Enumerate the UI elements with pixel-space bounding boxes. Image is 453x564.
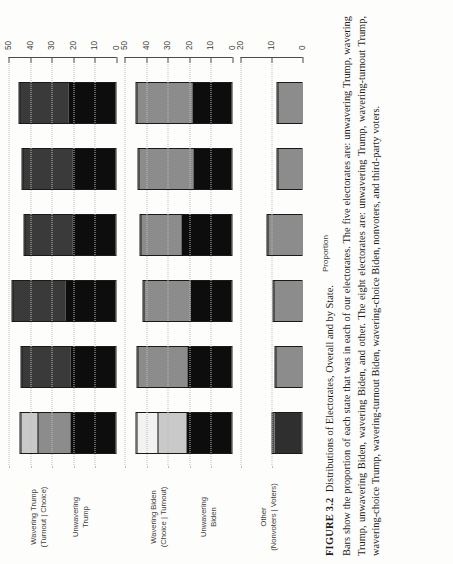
segment-unwavering-trump bbox=[72, 149, 115, 189]
segment-wavering-trump-combined-5-electorate- bbox=[21, 347, 70, 387]
gridline bbox=[189, 64, 190, 468]
figure-number: FIGURE 3.2 bbox=[323, 498, 334, 557]
segment-unwavering-trump bbox=[70, 413, 115, 453]
bar-trump-WI[interactable] bbox=[18, 82, 116, 124]
axis-tick-label: 20 bbox=[184, 41, 193, 50]
bar-other-FL[interactable] bbox=[272, 280, 302, 322]
segment-wavering-biden-combined-5-electorate- bbox=[136, 83, 192, 123]
bar-biden-FL[interactable] bbox=[142, 280, 232, 322]
bar-other-WI[interactable] bbox=[276, 82, 302, 124]
gridline bbox=[30, 64, 31, 468]
axis-tick bbox=[302, 57, 303, 63]
strip-label-line1: Wavering Trump bbox=[28, 474, 38, 560]
gridline bbox=[8, 64, 9, 468]
axis-tick bbox=[167, 57, 168, 63]
strip-label-line1: Unwavering bbox=[198, 474, 208, 560]
strip-label-line1: Other bbox=[258, 474, 268, 560]
segment-unwavering-trump bbox=[72, 215, 115, 255]
axis-tick bbox=[124, 57, 125, 63]
strip-label-line2: Trump bbox=[80, 474, 90, 560]
strip-label-line2: (Nonvoters | Voters) bbox=[268, 474, 278, 560]
segment-unwavering-trump bbox=[68, 83, 115, 123]
bar-biden-All8[interactable] bbox=[135, 412, 232, 454]
axis-tick-label: 0 bbox=[297, 45, 306, 50]
segment-unwavering-biden bbox=[193, 149, 231, 189]
strip-label-line2: Biden bbox=[208, 474, 218, 560]
segment-other-combined-5-electorate- bbox=[277, 83, 301, 123]
figure-caption: FIGURE 3.2 Distributions of Electorates,… bbox=[322, 16, 383, 556]
segment-nonvoters bbox=[274, 413, 301, 453]
panel-trump bbox=[8, 64, 116, 468]
axis-tick bbox=[8, 57, 9, 63]
axis-tick bbox=[146, 57, 147, 63]
segment-wavering-trump-combined-5-electorate- bbox=[19, 83, 69, 123]
axis-tick-label: 10 bbox=[205, 41, 214, 50]
strip-label-line2: (Turnout | Choice) bbox=[38, 474, 48, 560]
segment-wavering-biden-combined-5-electorate- bbox=[137, 347, 187, 387]
strip-label-line1: Wavering Biden bbox=[148, 474, 158, 560]
bar-other-All5[interactable] bbox=[274, 346, 302, 388]
gridline bbox=[240, 64, 241, 468]
bar-trump-PA[interactable] bbox=[23, 214, 116, 256]
strip-label-trump-wav: Wavering Trump(Turnout | Choice) bbox=[28, 474, 48, 560]
bar-trump-All8[interactable] bbox=[19, 412, 116, 454]
strip-label-biden-wav: Wavering Biden(Choice | Turnout) bbox=[148, 474, 168, 560]
bar-other-MI[interactable] bbox=[276, 148, 302, 190]
axis-tick-label: 10 bbox=[89, 41, 98, 50]
bar-trump-MI[interactable] bbox=[21, 148, 116, 190]
axis-tick-label: 40 bbox=[141, 41, 150, 50]
segment-other-combined-5-electorate- bbox=[277, 149, 301, 189]
segment-wavering-turnout-trump bbox=[37, 413, 70, 453]
segment-wavering-trump-combined-5-electorate- bbox=[12, 281, 65, 321]
y-axis-trump bbox=[8, 57, 116, 58]
axis-tick bbox=[210, 57, 211, 63]
axis-tick bbox=[240, 57, 241, 63]
axis-tick-label: 20 bbox=[235, 41, 244, 50]
segment-other-combined-5-electorate- bbox=[275, 347, 301, 387]
segment-wavering-trump-combined-5-electorate- bbox=[24, 215, 72, 255]
segment-wavering-choice-trump bbox=[20, 413, 37, 453]
axis-tick bbox=[116, 57, 117, 63]
segment-unwavering-biden bbox=[187, 347, 231, 387]
axis-tick-label: 10 bbox=[266, 41, 275, 50]
axis-tick-label: 30 bbox=[162, 41, 171, 50]
figure-page: 010203040500102030405001020 UnwaveringTr… bbox=[0, 0, 453, 564]
figure-title: Distributions of Electorates, Overall an… bbox=[323, 285, 334, 492]
axis-tick bbox=[189, 57, 190, 63]
strip-label-other: Other(Nonvoters | Voters) bbox=[258, 474, 278, 560]
axis-tick bbox=[73, 57, 74, 63]
strip-label-line2: (Choice | Turnout) bbox=[158, 474, 168, 560]
axis-tick bbox=[232, 57, 233, 63]
gridline bbox=[167, 64, 168, 468]
axis-tick bbox=[94, 57, 95, 63]
segment-wavering-biden-combined-5-electorate- bbox=[143, 281, 189, 321]
bar-trump-FL[interactable] bbox=[11, 280, 116, 322]
axis-tick bbox=[271, 57, 272, 63]
gridline bbox=[94, 64, 95, 468]
axis-tick-label: 40 bbox=[25, 41, 34, 50]
bar-biden-WI[interactable] bbox=[135, 82, 232, 124]
bar-trump-All5[interactable] bbox=[20, 346, 116, 388]
bar-biden-PA[interactable] bbox=[139, 214, 232, 256]
strip-label-line1: Unwavering bbox=[70, 474, 80, 560]
gridline bbox=[51, 64, 52, 468]
rotated-figure-wrapper: 010203040500102030405001020 UnwaveringTr… bbox=[0, 0, 453, 564]
segment-unwavering-trump bbox=[70, 347, 115, 387]
axis-tick-label: 50 bbox=[3, 41, 12, 50]
caption-title-line: FIGURE 3.2 Distributions of Electorates,… bbox=[322, 16, 337, 556]
segment-other-combined-5-electorate- bbox=[273, 281, 301, 321]
gridline bbox=[124, 64, 125, 468]
axis-tick bbox=[51, 57, 52, 63]
panel-other bbox=[240, 64, 302, 468]
axis-tick-label: 30 bbox=[46, 41, 55, 50]
gridline bbox=[73, 64, 74, 468]
bar-biden-MI[interactable] bbox=[137, 148, 232, 190]
gridline bbox=[271, 64, 272, 468]
axis-tick-label: 50 bbox=[119, 41, 128, 50]
caption-body: Bars show the proportion of each state t… bbox=[339, 16, 383, 556]
bar-biden-All5[interactable] bbox=[136, 346, 232, 388]
bar-other-All8[interactable] bbox=[271, 412, 302, 454]
plot-area: 010203040500102030405001020 UnwaveringTr… bbox=[8, 64, 308, 468]
strip-label-biden: UnwaveringBiden bbox=[198, 474, 218, 560]
strip-label-trump: UnwaveringTrump bbox=[70, 474, 90, 560]
